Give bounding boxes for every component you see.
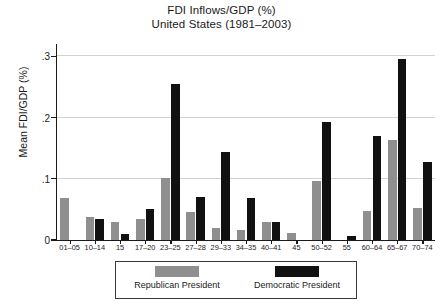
chart-title-block: FDI Inflows/GDP (%) United States (1981–… xyxy=(0,3,443,31)
x-tick-mark xyxy=(397,240,398,244)
page-title: FDI Inflows/GDP (%) xyxy=(0,3,443,17)
x-tick-label: 70–74 xyxy=(412,243,433,252)
y-tick-mark xyxy=(51,56,57,57)
x-tick-mark xyxy=(95,240,96,244)
bar-group xyxy=(57,44,435,240)
x-tick-label: 55 xyxy=(343,243,351,252)
x-tick-mark xyxy=(372,240,373,244)
x-tick-label: 27–28 xyxy=(185,243,206,252)
x-tick-mark xyxy=(322,240,323,244)
x-tick-label: 01–05 xyxy=(59,243,80,252)
y-axis-tick-labels: 0.1.2.3 xyxy=(18,0,50,305)
plot-area xyxy=(57,44,435,240)
y-tick-label-.1: .1 xyxy=(26,173,50,184)
x-tick-mark xyxy=(296,240,297,244)
x-tick-mark xyxy=(196,240,197,244)
x-tick-mark xyxy=(271,240,272,244)
x-tick-mark xyxy=(70,240,71,244)
x-tick-label: 23–25 xyxy=(160,243,181,252)
y-tick-mark xyxy=(51,239,57,240)
x-tick-label: 17–20 xyxy=(135,243,156,252)
chart-subtitle: United States (1981–2003) xyxy=(0,17,443,31)
y-tick-label-.3: .3 xyxy=(26,51,50,62)
y-tick-mark xyxy=(51,117,57,118)
x-tick-mark xyxy=(422,240,423,244)
legend-swatch xyxy=(275,266,319,277)
x-tick-label: 34–35 xyxy=(236,243,257,252)
y-tick-mark xyxy=(51,178,57,179)
x-axis-tick-labels: 01–0510–141517–2023–2527–2829–3334–3540–… xyxy=(57,243,435,255)
x-tick-mark xyxy=(145,240,146,244)
x-tick-label: 15 xyxy=(116,243,124,252)
bar-republican xyxy=(413,208,422,240)
x-tick-label: 65–67 xyxy=(387,243,408,252)
x-tick-label: 50–52 xyxy=(311,243,332,252)
legend-entry: Republican President xyxy=(118,266,236,290)
legend-entry: Democratic President xyxy=(238,266,356,290)
legend-label: Republican President xyxy=(118,280,236,290)
y-tick-label-0: 0 xyxy=(26,235,50,246)
legend-swatch xyxy=(155,266,199,277)
x-tick-label: 60–64 xyxy=(362,243,383,252)
fdi-inflows-bar-chart: FDI Inflows/GDP (%) United States (1981–… xyxy=(0,0,443,305)
bar-democratic xyxy=(423,162,432,240)
x-tick-mark xyxy=(347,240,348,244)
x-tick-mark xyxy=(120,240,121,244)
x-tick-label: 40–41 xyxy=(261,243,282,252)
chart-legend: Republican PresidentDemocratic President xyxy=(115,261,357,299)
y-tick-label-.2: .2 xyxy=(26,112,50,123)
legend-label: Democratic President xyxy=(238,280,356,290)
x-tick-label: 45 xyxy=(292,243,300,252)
x-tick-label: 10–14 xyxy=(85,243,106,252)
x-tick-label: 29–33 xyxy=(211,243,232,252)
x-tick-mark xyxy=(246,240,247,244)
x-tick-mark xyxy=(170,240,171,244)
x-tick-mark xyxy=(221,240,222,244)
